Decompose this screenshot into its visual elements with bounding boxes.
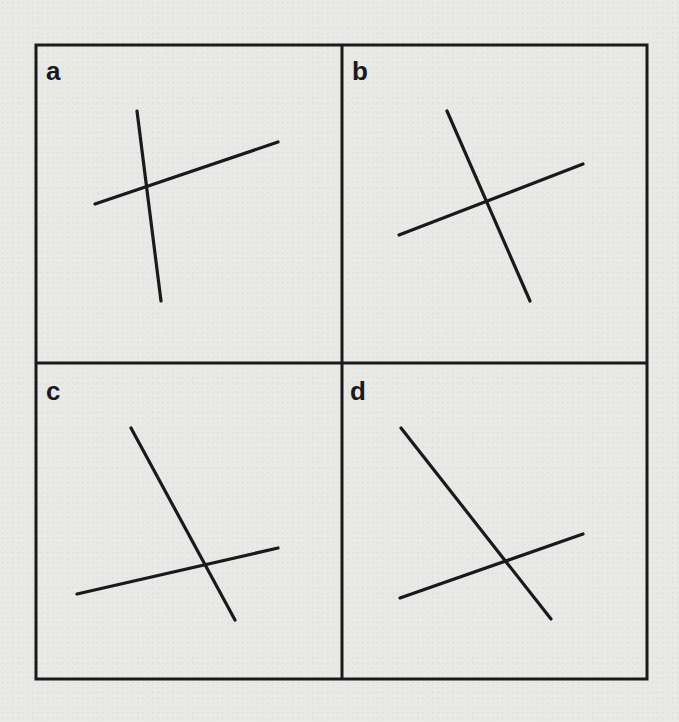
four-panel-figure: a b c d — [0, 0, 679, 722]
panel-b-line-1 — [447, 111, 530, 301]
panel-label-c: c — [46, 376, 60, 406]
panel-label-d: d — [350, 376, 366, 406]
panel-label-a: a — [46, 56, 61, 86]
panel-a-line-1 — [137, 111, 161, 301]
panel-c-line-1 — [131, 428, 235, 620]
panel-label-b: b — [352, 56, 368, 86]
panel-b: b — [352, 56, 583, 301]
panel-a-line-2 — [95, 142, 278, 204]
panel-b-line-2 — [399, 164, 583, 235]
panel-c-line-2 — [77, 548, 278, 594]
panel-c: c — [46, 376, 278, 620]
panel-d: d — [350, 376, 583, 619]
panel-a: a — [46, 56, 278, 301]
